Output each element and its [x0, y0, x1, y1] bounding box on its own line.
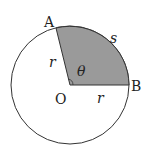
label-center: O — [55, 91, 66, 107]
label-point-a: A — [43, 14, 55, 30]
label-point-b: B — [131, 78, 141, 94]
sector-diagram: A B O r r s θ — [0, 0, 147, 154]
shaded-sector — [56, 26, 129, 85]
label-angle: θ — [77, 63, 86, 79]
label-radius-left: r — [49, 54, 57, 70]
label-radius-bottom: r — [97, 90, 105, 106]
label-arc: s — [110, 30, 117, 46]
